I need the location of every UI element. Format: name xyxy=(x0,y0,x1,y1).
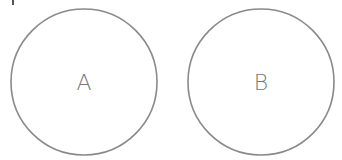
circle-a-label: A xyxy=(76,70,91,95)
circle-a: A xyxy=(11,9,157,155)
circle-b: B xyxy=(188,9,334,155)
two-circles-diagram: A B xyxy=(0,0,342,160)
circle-b-label: B xyxy=(254,70,268,95)
